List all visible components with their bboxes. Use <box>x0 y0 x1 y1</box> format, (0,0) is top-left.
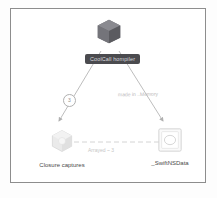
node-root[interactable]: CoolCall hompiler <box>85 17 133 65</box>
node-swiftnsdata-label: _SwiftNSData <box>139 160 201 167</box>
edge-label-arrayed: Arrayed ~ 3 <box>88 147 114 153</box>
node-swiftnsdata[interactable]: _SwiftNSData <box>139 127 201 167</box>
cube-3d-icon <box>48 127 76 155</box>
cube-3d-icon <box>94 17 124 47</box>
edge-label-made-in-memory: made in ..Memory <box>118 91 158 98</box>
diagram-canvas: CoolCall hompiler Closure captures _Swif… <box>10 8 206 183</box>
edge-badge-count: 3 <box>63 94 76 107</box>
node-closure-captures-label: Closure captures <box>25 162 99 169</box>
diagram-page: CoolCall hompiler Closure captures _Swif… <box>0 0 217 198</box>
rounded-square-icon <box>157 127 183 153</box>
node-root-label: CoolCall hompiler <box>85 54 140 64</box>
